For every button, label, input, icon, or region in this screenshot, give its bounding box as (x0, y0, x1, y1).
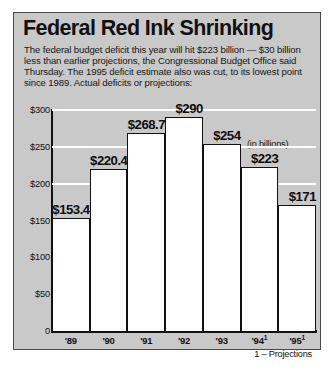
page-title: Federal Red Ink Shrinking (23, 17, 315, 40)
y-axis-tick-label: $250 (16, 142, 50, 152)
x-axis-tick-label: '92 (165, 335, 203, 346)
bar-value-label: $268.7 (85, 117, 165, 132)
footnote: 1 – Projections (254, 349, 312, 359)
y-axis-tick-label: $200 (16, 179, 50, 189)
bar (127, 133, 165, 331)
chart-panel: Federal Red Ink Shrinking The federal bu… (13, 12, 321, 350)
bar (203, 144, 241, 331)
bar-value-label: $171 (236, 189, 316, 204)
x-axis-tick-label: '93 (203, 335, 241, 346)
y-axis-tick-label: $100 (16, 252, 50, 262)
bar-value-label: $220.4 (48, 153, 128, 168)
bar (278, 205, 316, 331)
x-axis-tick-label: '951 (278, 335, 316, 346)
y-axis-tick-label: 0 (16, 326, 50, 336)
bar-value-label: $153.4 (10, 202, 90, 217)
bar-value-label: $254 (161, 128, 241, 143)
chart-page: Federal Red Ink Shrinking The federal bu… (0, 0, 336, 370)
x-axis-tick-label: '90 (90, 335, 128, 346)
bar (165, 117, 203, 331)
chart-subtitle: The federal budget deficit this year wil… (24, 44, 314, 88)
y-axis-tick-label: $300 (16, 105, 50, 115)
x-axis-tick-label: '89 (52, 335, 90, 346)
y-axis-tick-label: $150 (16, 216, 50, 226)
bar (52, 218, 90, 331)
x-axis-tick-label: '91 (127, 335, 165, 346)
x-axis-tick-label: '941 (240, 335, 278, 346)
bar-value-label: $223 (199, 151, 279, 166)
bar (90, 169, 128, 331)
bar-value-label: $290 (123, 101, 203, 116)
y-axis-tick-label: $50 (16, 289, 50, 299)
